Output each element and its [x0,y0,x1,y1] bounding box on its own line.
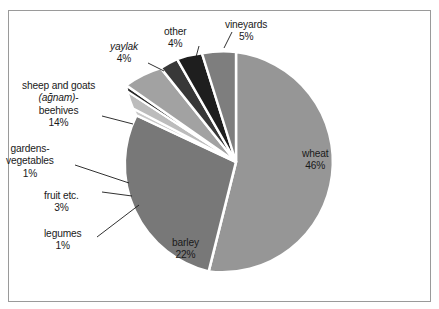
pie-label-fruit-name: fruit etc. [44,190,79,201]
pie-label-barley-name: barley [172,237,199,248]
pie-chart-graphic [0,0,439,309]
pie-label-sheep-line2-italic: (ağnam) [38,92,75,103]
pie-label-yaylak-name: yaylak [110,41,138,52]
pie-label-yaylak: yaylak 4% [110,41,138,66]
pie-label-sheep-goats-beehives: sheep and goats (ağnam)- beehives 14% [22,80,95,130]
pie-label-gardens-line1: gardens- [10,143,49,154]
pie-label-gardens-vegetables: gardens- vegetables 1% [6,143,54,180]
pie-label-fruit-pct: 3% [54,202,68,213]
pie-label-fruit: fruit etc. 3% [44,190,79,215]
pie-label-gardens-line2: vegetables [6,155,54,166]
pie-label-wheat: wheat 46% [302,148,328,173]
pie-label-sheep-line3: beehives [39,105,79,116]
leader-legumes [97,205,139,237]
pie-label-barley-pct: 22% [175,249,195,260]
pie-label-vineyards-name: vineyards [225,19,267,30]
leader-gardens [75,165,129,183]
pie-label-vineyards: vineyards 5% [225,19,267,44]
pie-label-barley: barley 22% [172,237,199,262]
pie-label-wheat-name: wheat [302,148,328,159]
pie-label-legumes-pct: 1% [56,240,70,251]
pie-label-wheat-pct: 46% [305,160,325,171]
pie-label-sheep-line1: sheep and goats [22,80,95,91]
pie-label-other-pct: 4% [168,38,182,49]
pie-label-vineyards-pct: 5% [225,31,267,43]
pie-label-sheep-line2-tail: - [75,92,78,103]
pie-label-legumes-name: legumes [44,228,81,239]
pie-label-yaylak-pct: 4% [117,53,131,64]
pie-label-sheep-pct: 14% [49,117,69,128]
pie-label-legumes: legumes 1% [44,228,81,253]
pie-label-other-name: other [164,26,186,37]
pie-label-other: other 4% [164,26,186,51]
pie-label-gardens-pct: 1% [23,168,37,179]
leader-sheep [102,116,133,124]
